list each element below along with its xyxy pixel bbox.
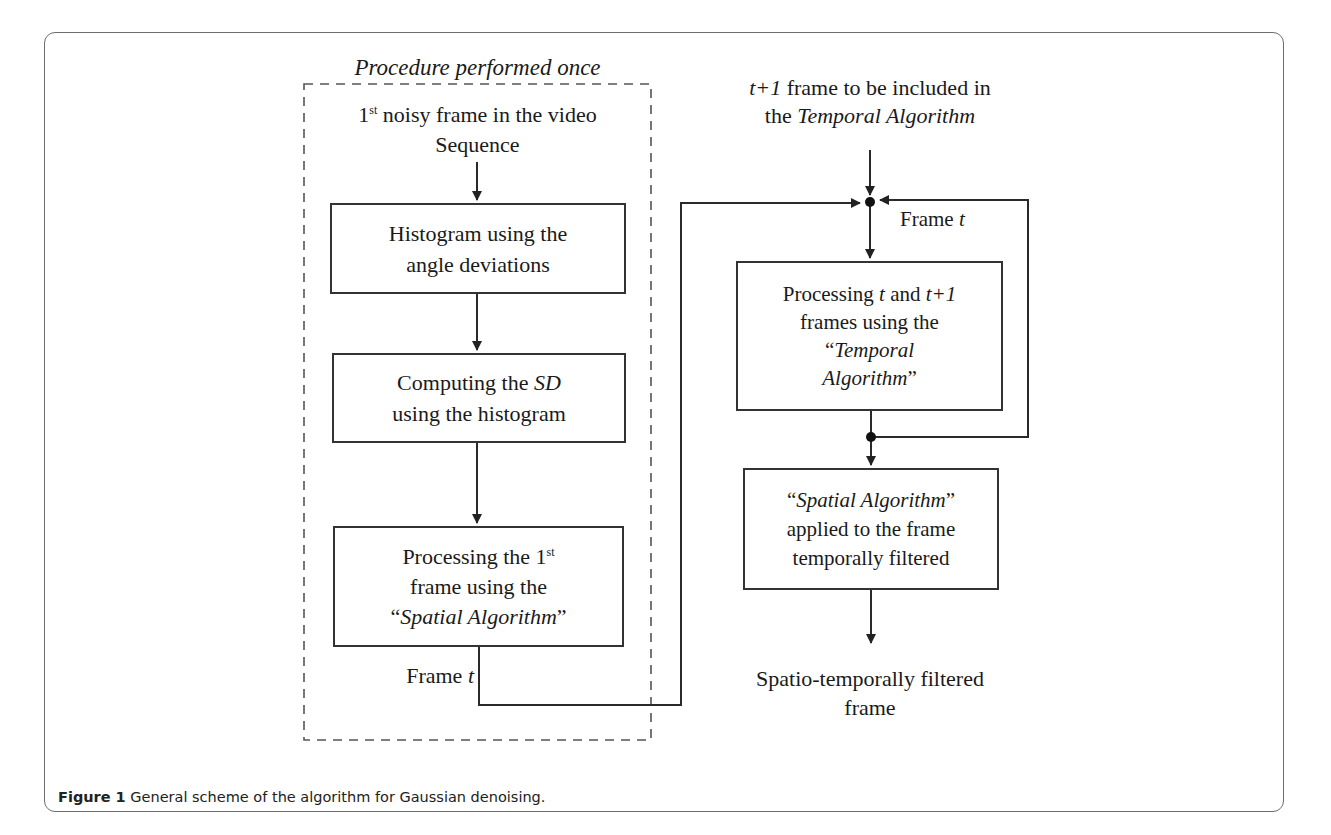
procedure-once-text: Procedure performed once <box>354 55 600 80</box>
t-plus-1-line2-prefix: the <box>765 103 797 128</box>
spatial-applied-box: “Spatial Algorithm” applied to the frame… <box>743 468 999 590</box>
flowchart-connectors <box>0 0 1331 835</box>
temporal-line1-t1: t+1 <box>926 282 957 306</box>
caption-label: Figure 1 <box>58 789 126 805</box>
spatial-first-line1: Processing the 1 <box>402 544 546 569</box>
t-plus-1-input-label: t+1 frame to be included in the Temporal… <box>700 74 1040 130</box>
compute-sd-box: Computing the SD using the histogram <box>332 353 626 443</box>
t-plus-1-italic: t+1 <box>749 75 781 100</box>
spatial-applied-close-quote: ” <box>946 488 955 512</box>
temporal-line4-italic: Algorithm <box>822 366 907 390</box>
spatial-applied-line3: temporally filtered <box>793 546 950 570</box>
input-line1-prefix: 1 <box>358 102 369 127</box>
spatial-applied-italic: Spatial Algorithm <box>796 488 946 512</box>
temporal-line1-mid: and <box>885 282 926 306</box>
histogram-box: Histogram using the angle deviations <box>330 203 626 294</box>
spatial-first-line2: frame using the <box>410 574 547 599</box>
frame-t-left-italic: t <box>468 663 474 688</box>
figure-caption: Figure 1 General scheme of the algorithm… <box>58 789 545 805</box>
spatial-first-italic: Spatial Algorithm <box>400 604 557 629</box>
output-line2: frame <box>844 695 895 720</box>
caption-text: General scheme of the algorithm for Gaus… <box>126 789 546 805</box>
feedback-prefix: Frame <box>900 207 959 231</box>
temporal-line3-italic: Temporal <box>834 338 914 362</box>
spatial-applied-line2: applied to the frame <box>787 517 956 541</box>
spatial-first-open-quote: “ <box>390 604 400 629</box>
first-noisy-frame-label: 1st noisy frame in the video Sequence <box>304 100 651 160</box>
temporal-line2: frames using the <box>800 310 939 334</box>
junction-dot-top <box>865 197 875 207</box>
sd-line1-italic: SD <box>534 370 561 395</box>
t-plus-1-line2-italic: Temporal Algorithm <box>797 103 975 128</box>
spatio-temporal-output-label: Spatio-temporally filtered frame <box>720 664 1020 722</box>
frame-t-left-prefix: Frame <box>406 663 468 688</box>
feedback-italic: t <box>959 207 965 231</box>
frame-t-feedback-label: Frame t <box>900 206 1000 232</box>
spatial-first-frame-box: Processing the 1st frame using the “Spat… <box>333 526 624 647</box>
temporal-close-quote: ” <box>907 366 916 390</box>
spatial-first-close-quote: ” <box>557 604 567 629</box>
output-line1: Spatio-temporally filtered <box>756 666 984 691</box>
t-plus-1-suffix: frame to be included in <box>781 75 991 100</box>
junction-dot-bottom <box>866 432 876 442</box>
spatial-applied-open-quote: “ <box>787 488 796 512</box>
input-line1-suffix: noisy frame in the video <box>377 102 596 127</box>
procedure-once-label: Procedure performed once <box>304 55 651 81</box>
sd-line2: using the histogram <box>392 401 566 426</box>
temporal-algorithm-box: Processing t and t+1 frames using the “T… <box>736 261 1003 411</box>
temporal-line1-prefix: Processing <box>783 282 879 306</box>
spatial-first-sup: st <box>547 544 555 558</box>
temporal-open-quote: “ <box>825 338 834 362</box>
sd-line1-prefix: Computing the <box>397 370 534 395</box>
histogram-line2: angle deviations <box>406 252 550 277</box>
histogram-line1: Histogram using the <box>389 221 567 246</box>
frame-t-left-label: Frame t <box>384 663 474 689</box>
input-line2: Sequence <box>435 132 519 157</box>
